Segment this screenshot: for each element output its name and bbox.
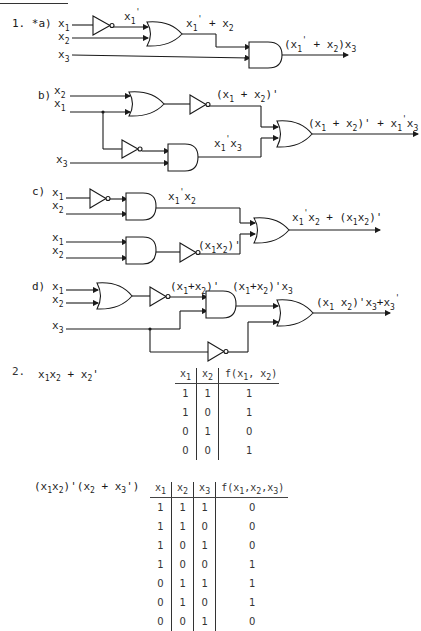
boolean-expression-1: x1x2 + x2'	[38, 368, 99, 383]
svg-text:(x1x2)': (x1x2)'	[198, 239, 241, 255]
svg-text:x1'x3: x1'x3	[214, 135, 242, 153]
table-row: 001	[175, 441, 279, 460]
boolean-expression-2: (x1x2)'(x2 + x3')	[34, 480, 139, 495]
table-header: f(x1, x2)	[219, 368, 280, 384]
circuit-a: 1. *a) x1 x2 x3 x1' x1' + x2 (x1' + x2)x…	[12, 8, 356, 68]
svg-text:b): b)	[38, 89, 51, 102]
table-row: 1010	[150, 536, 288, 555]
svg-text:x1'x2 + (x1x2)': x1'x2 + (x1x2)'	[292, 209, 382, 227]
table-row: 0101	[150, 593, 288, 612]
svg-text:c): c)	[32, 185, 45, 198]
table-row: 111	[175, 384, 279, 404]
table-header: f(x1,x2,x3)	[216, 482, 289, 498]
table-row: 010	[175, 422, 279, 441]
problem-number: 1. *a)	[12, 17, 52, 30]
truth-table-2: x1 x2 x3 f(x1,x2,x3) 1110 1100 1010 1001…	[150, 482, 288, 631]
table-row: 101	[175, 403, 279, 422]
svg-text:(x1 + x2)' + x1'x3: (x1 + x2)' + x1'x3	[308, 115, 418, 133]
or-gate	[147, 22, 182, 46]
svg-text:x1'x2: x1'x2	[168, 188, 196, 206]
and-gate	[249, 42, 282, 68]
svg-text:(x1 + x2)': (x1 + x2)'	[216, 88, 279, 104]
table-header: x2	[197, 368, 219, 384]
problem-number: 2.	[12, 365, 25, 378]
table-row: 1001	[150, 555, 288, 574]
table-row: 1100	[150, 517, 288, 536]
svg-text:(x1+x2)'x3: (x1+x2)'x3	[232, 280, 293, 296]
table-header: x3	[194, 482, 216, 498]
circuit-b: b) x2 x1 x3 (x1 + x2)' x1'x3 (x1 + x2)' …	[38, 84, 418, 171]
svg-text:(x1' + x2)x3: (x1' + x2)x3	[284, 36, 356, 54]
table-header: x1	[150, 482, 172, 498]
svg-text:x1': x1'	[124, 8, 140, 26]
svg-text:(x1 x2)'x3+x3': (x1 x2)'x3+x3'	[316, 294, 400, 312]
table-header: x2	[172, 482, 194, 498]
table-row: 0010	[150, 612, 288, 631]
svg-text:x1' + x2: x1' + x2	[186, 15, 234, 33]
not-gate	[93, 16, 110, 35]
svg-text:d): d)	[32, 280, 45, 293]
table-row: 0111	[150, 574, 288, 593]
table-header: x1	[175, 368, 197, 384]
circuit-d: d) x1 x2 x3 (x1+x2)' (x1+x2)'x3 (x1 x2)'…	[32, 280, 400, 361]
truth-table-1: x1 x2 f(x1, x2) 111 101 010 001	[175, 368, 279, 460]
svg-text:x3: x3	[56, 153, 68, 169]
circuit-c: c) x1 x2 x1 x2 x1'x2 (x1x2)' x1'x2 + (x1…	[32, 185, 382, 264]
svg-text:x3: x3	[52, 319, 64, 335]
svg-text:x3: x3	[58, 48, 70, 64]
table-row: 1110	[150, 498, 288, 518]
